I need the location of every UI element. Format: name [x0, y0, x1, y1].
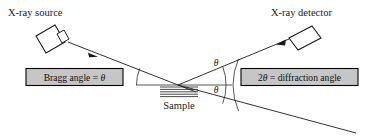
left-bragg-angle-arc: [136, 69, 139, 86]
bragg-angle-callout-text: Bragg angle = θ: [44, 72, 106, 83]
xray-detector-body: [289, 26, 321, 50]
xray-detector-device[interactable]: [289, 26, 321, 50]
theta-upper-label: θ: [214, 58, 219, 68]
xray-source-device[interactable]: [36, 25, 69, 53]
xray-detector-label: X-ray detector: [271, 7, 332, 18]
theta-lower-label: θ: [214, 85, 219, 95]
diagram-canvas: θ θ X-ray source X-ray detector Sample B…: [0, 0, 365, 138]
incident-beam-continuation: [178, 85, 196, 92]
diffracted-beam-arrowhead: [276, 40, 286, 46]
sample-label: Sample: [163, 100, 195, 111]
transmitted-beam-line: [178, 85, 356, 133]
bragg-angle-callout[interactable]: Bragg angle = θ: [26, 69, 123, 86]
diffraction-suffix: diffraction angle: [278, 72, 342, 83]
xrd-geometry-diagram: θ θ X-ray source X-ray detector Sample B…: [0, 0, 365, 138]
xray-source-label: X-ray source: [8, 7, 63, 18]
bragg-prefix: Bragg angle: [44, 72, 91, 83]
outer-arc-two-theta: [233, 59, 238, 111]
inner-arc-theta-upper: [223, 66, 226, 85]
bragg-theta-symbol: θ: [101, 72, 106, 83]
diffraction-angle-callout[interactable]: 2θ = diffraction angle: [241, 69, 358, 86]
inner-arc-theta-lower: [223, 85, 226, 104]
diffraction-angle-callout-text: 2θ = diffraction angle: [258, 72, 341, 83]
